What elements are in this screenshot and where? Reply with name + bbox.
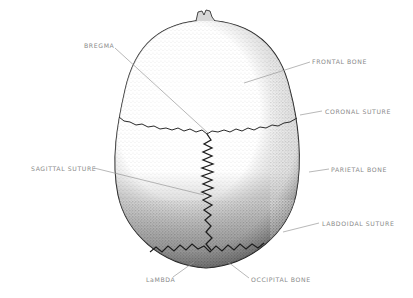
label-bregma: BREGMA — [84, 42, 114, 49]
label-coronal-suture: CORONAL SUTURE — [325, 108, 391, 115]
label-sagittal-suture: SAGITTAL SUTURE — [31, 165, 96, 172]
label-lambda: LaMBDA — [146, 276, 175, 283]
label-occipital-bone: OCCIPITAL BONE — [251, 276, 311, 283]
label-parietal-bone: PARIETAL BONE — [331, 166, 387, 173]
nasal-process — [196, 10, 215, 21]
label-frontal-bone: FRONTAL BONE — [312, 58, 367, 65]
label-lambdoidal-suture: LABDOIDAL SUTURE — [322, 220, 394, 227]
skull-illustration — [0, 0, 413, 298]
